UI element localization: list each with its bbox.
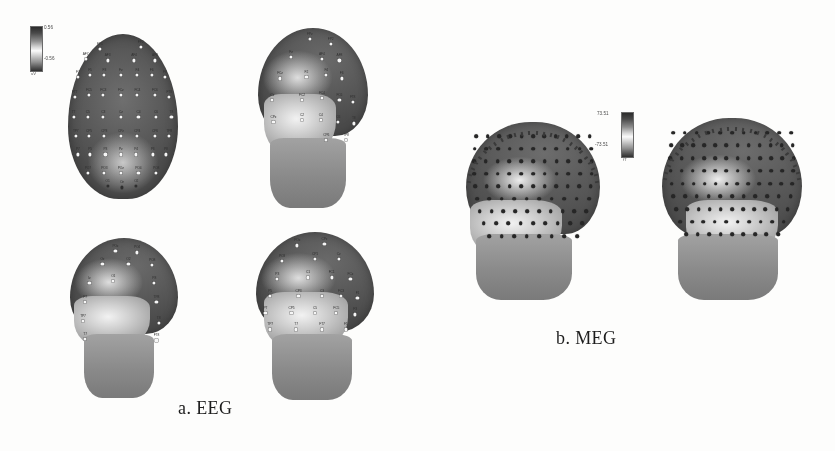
meg-sensor bbox=[708, 207, 712, 211]
meg-sensor bbox=[575, 197, 579, 201]
meg-sensor bbox=[566, 147, 570, 151]
meg-sensor bbox=[741, 207, 745, 211]
meg-sensor bbox=[789, 131, 793, 135]
eeg-electrode-label: T7 bbox=[72, 110, 76, 114]
meg-sensor bbox=[567, 159, 571, 163]
eeg-electrode-label: P3 bbox=[275, 272, 279, 276]
eeg-electrode-label: P6 bbox=[151, 147, 155, 151]
meg-sensor bbox=[776, 233, 780, 237]
eeg-electrode-label: FCz bbox=[118, 88, 124, 92]
meg-sensor-rim-marker bbox=[795, 171, 799, 174]
meg-sensor bbox=[724, 220, 728, 224]
meg-sensor bbox=[573, 209, 577, 213]
eeg-colorbar-max-label: 0.56 bbox=[44, 25, 53, 30]
eeg-head-view-top: FP1FP2AF7AF8AF3AF4F7F8F5F3FzF4F6FT7FT8FC… bbox=[68, 34, 178, 199]
meg-sensor bbox=[475, 134, 479, 138]
eeg-electrode-label: FC3 bbox=[338, 289, 344, 293]
meg-sensor bbox=[758, 169, 762, 173]
meg-sensor bbox=[702, 220, 706, 224]
eeg-electrode-label: C1 bbox=[306, 270, 310, 274]
meg-sensor bbox=[485, 184, 489, 188]
meg-sensor bbox=[543, 147, 547, 151]
meg-sensor bbox=[508, 147, 512, 151]
meg-sensor bbox=[681, 144, 685, 148]
meg-sensor bbox=[588, 134, 592, 138]
eeg-electrode-label: FC3 bbox=[100, 88, 106, 92]
eeg-electrode-label: FT7 bbox=[72, 90, 77, 94]
eeg-electrode-label: FC5 bbox=[86, 88, 92, 92]
meg-sensor bbox=[581, 222, 585, 226]
meg-sensor bbox=[769, 182, 773, 186]
eeg-electrode-label: POz bbox=[112, 244, 118, 248]
meg-sensor bbox=[556, 222, 560, 226]
eeg-electrode-label: PO8 bbox=[149, 258, 155, 262]
eeg-electrode-label: Iz bbox=[88, 276, 90, 280]
eeg-electrode-label: C6 bbox=[336, 115, 340, 119]
meg-head-view-left-oblique bbox=[466, 122, 600, 300]
meg-sensor bbox=[554, 184, 558, 188]
meg-sensor bbox=[696, 233, 700, 237]
meg-sensor bbox=[791, 182, 795, 186]
eeg-electrode-label: FC2 bbox=[299, 93, 305, 97]
eeg-electrode-label: FCz bbox=[277, 71, 283, 75]
meg-sensor bbox=[565, 134, 569, 138]
meg-sensor-rim-marker bbox=[543, 131, 546, 135]
eeg-electrode-label: C4 bbox=[136, 110, 140, 114]
meg-sensor bbox=[683, 194, 687, 198]
eeg-electrode-label: O1 bbox=[106, 179, 110, 183]
meg-sensor bbox=[754, 194, 758, 198]
eeg-head-view-back: POzPO4OzO2PO8IzO1P8P7TP8TP7T8T7FT8 bbox=[70, 238, 178, 398]
meg-sensor bbox=[777, 131, 781, 135]
meg-sensor bbox=[589, 184, 593, 188]
eeg-electrode-label: P8 bbox=[152, 276, 156, 280]
eeg-electrode-label: PO4 bbox=[135, 166, 141, 170]
meg-sensor bbox=[484, 159, 488, 163]
eeg-electrode-label: TP7 bbox=[73, 129, 79, 133]
meg-sensor bbox=[575, 234, 579, 238]
eeg-electrode-label: CP3 bbox=[295, 289, 301, 293]
meg-sensor bbox=[512, 234, 516, 238]
eeg-electrode-label: T7 bbox=[83, 332, 87, 336]
neck-surface bbox=[476, 234, 572, 300]
eeg-electrode-label: AF4 bbox=[319, 52, 325, 56]
eeg-electrode-label: F2 bbox=[305, 70, 309, 74]
meg-sensor bbox=[487, 234, 491, 238]
eeg-electrode-label: CP4 bbox=[134, 129, 140, 133]
eeg-electrode-label: TP8 bbox=[166, 129, 172, 133]
meg-sensor bbox=[555, 159, 559, 163]
meg-sensor bbox=[769, 144, 773, 148]
eeg-electrode-label: Fz bbox=[119, 68, 122, 72]
meg-sensor bbox=[531, 222, 535, 226]
meg-sensor bbox=[554, 147, 558, 151]
meg-sensor bbox=[690, 220, 694, 224]
meg-sensor bbox=[791, 144, 795, 148]
eeg-electrode-label: P4 bbox=[134, 147, 138, 151]
meg-sensor bbox=[736, 182, 740, 186]
eeg-electrode-label: F3 bbox=[353, 307, 357, 311]
meg-colorbar: 73.51 -73.51 fT bbox=[621, 112, 634, 158]
meg-sensor bbox=[578, 172, 582, 176]
figure-root: 0.56 -0.56 uV FP1FP2AF7AF8AF3AF4F7F8F5F3… bbox=[0, 0, 835, 451]
eeg-colorbar-strip bbox=[30, 26, 43, 72]
meg-sensor bbox=[725, 156, 729, 160]
meg-sensor bbox=[713, 156, 717, 160]
eeg-electrode-label: FC6 bbox=[152, 88, 158, 92]
meg-sensor bbox=[544, 222, 548, 226]
meg-sensor bbox=[484, 172, 488, 176]
eeg-electrode-label: T7 bbox=[294, 322, 298, 326]
meg-sensor bbox=[736, 144, 740, 148]
eeg-electrode-label: F7 bbox=[76, 70, 80, 74]
meg-sensor bbox=[478, 209, 482, 213]
meg-sensor bbox=[563, 234, 567, 238]
eeg-electrode-label: POz bbox=[118, 166, 124, 170]
eeg-electrode-label: F5 bbox=[88, 68, 92, 72]
meg-sensor bbox=[782, 220, 786, 224]
meg-sensor bbox=[714, 144, 718, 148]
eeg-electrode-label: F6 bbox=[340, 71, 344, 75]
eeg-electrode-label: Cz bbox=[270, 93, 274, 97]
eeg-electrode-label: AF4 bbox=[131, 53, 137, 57]
meg-sensor bbox=[769, 169, 773, 173]
eeg-colorbar-unit-label: uV bbox=[31, 71, 36, 76]
eeg-electrode-label: P8 bbox=[164, 147, 168, 151]
meg-colorbar-max-label: 73.51 bbox=[597, 111, 609, 116]
